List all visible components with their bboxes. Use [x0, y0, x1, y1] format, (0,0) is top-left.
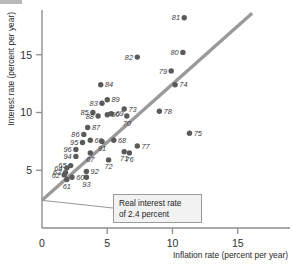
data-point-label-80: 80 [170, 48, 179, 57]
data-point-label-90: 90 [112, 110, 121, 119]
data-point-label-91: 91 [98, 144, 106, 153]
y-tick-label-10: 10 [20, 106, 32, 118]
data-point-marker-87 [85, 125, 90, 130]
data-point-marker-82 [135, 54, 140, 59]
x-tick-label-0: 0 [39, 237, 45, 249]
real-interest-rate-line [42, 13, 252, 200]
data-point-marker-84 [98, 82, 103, 87]
data-point-marker-62 [61, 172, 66, 177]
data-point-marker-96 [73, 147, 78, 152]
data-point-label-82: 82 [125, 53, 133, 62]
data-point: 94 [63, 152, 78, 161]
data-point-marker-86 [81, 132, 86, 137]
y-axis-title: Interest rate (percent per year) [6, 12, 16, 126]
data-point-marker-94 [73, 154, 78, 159]
x-axis-ticks [107, 228, 238, 234]
data-point-marker-83 [99, 101, 104, 106]
data-points-group: 8180827974848983737885699088708786756668… [52, 13, 203, 191]
data-point: 77 [135, 142, 151, 151]
data-point-label-72: 72 [104, 162, 112, 171]
data-point-label-88: 88 [86, 112, 95, 121]
data-point-label-83: 83 [90, 99, 99, 108]
chart-page: 8180827974848983737885699088708786756668… [0, 0, 293, 266]
data-point: 82 [125, 53, 140, 62]
data-point-marker-95 [80, 140, 85, 145]
data-point-marker-78 [157, 109, 162, 114]
data-point-label-84: 84 [105, 80, 113, 89]
data-point-label-60: 60 [76, 173, 85, 182]
data-point: 72 [104, 157, 112, 171]
data-point-marker-68 [111, 138, 116, 143]
x-axis-title: Inflation rate (percent per year) [173, 250, 288, 260]
annotation-line-1: Real interest rate [119, 199, 201, 210]
data-point: 89 [105, 95, 120, 104]
data-point-label-94: 94 [63, 152, 71, 161]
data-point-marker-90 [105, 112, 110, 117]
data-point-label-67: 67 [86, 155, 95, 164]
data-point-marker-60 [69, 175, 74, 180]
data-point: 87 [85, 123, 101, 132]
data-point-marker-64 [64, 165, 69, 170]
data-point-label-92: 92 [91, 167, 99, 176]
data-point: 78 [157, 107, 173, 116]
data-point: 79 [159, 67, 174, 76]
x-tick-label-10: 10 [167, 237, 179, 249]
data-point-label-62: 62 [52, 171, 60, 180]
data-point-label-73: 73 [128, 105, 137, 114]
data-point: 75 [187, 129, 203, 138]
y-axis-ticks [36, 55, 42, 171]
data-point: 90 [105, 110, 121, 119]
data-point-marker-89 [105, 97, 110, 102]
scatter-plot: 8180827974848983737885699088708786756668… [0, 0, 293, 266]
data-point-label-61: 61 [63, 182, 71, 191]
data-point: 84 [98, 80, 113, 89]
chart-canvas: 8180827974848983737885699088708786756668… [0, 0, 293, 266]
data-point-label-70: 70 [123, 119, 132, 128]
x-tick-label-15: 15 [232, 237, 244, 249]
data-point-marker-77 [135, 143, 140, 148]
annotation-leader-line [42, 200, 113, 208]
data-point-marker-92 [84, 169, 89, 174]
data-point-marker-75 [187, 131, 192, 136]
y-tick-label-15: 15 [20, 49, 32, 61]
data-point-marker-66 [88, 138, 93, 143]
data-point-marker-88 [95, 113, 100, 118]
data-point-label-77: 77 [142, 142, 151, 151]
data-point: 88 [86, 112, 101, 121]
y-tick-label-5: 5 [26, 164, 32, 176]
data-point-label-76: 76 [125, 155, 134, 164]
data-point: 73 [122, 105, 138, 114]
data-point-marker-79 [169, 68, 174, 73]
data-point-label-79: 79 [159, 67, 167, 76]
data-point-label-75: 75 [194, 129, 203, 138]
x-tick-label-5: 5 [104, 237, 110, 249]
data-point-label-74: 74 [179, 80, 187, 89]
data-point-label-78: 78 [164, 107, 173, 116]
data-point: 70 [123, 113, 132, 127]
data-point: 81 [172, 13, 187, 22]
annotation-text: Real interest rate of 2.4 percent [114, 195, 201, 220]
data-point-label-89: 89 [112, 95, 120, 104]
data-point-label-87: 87 [92, 123, 101, 132]
annotation-box: Real interest rate of 2.4 percent [113, 194, 202, 223]
data-point-label-68: 68 [118, 136, 127, 145]
data-point-marker-80 [180, 50, 185, 55]
data-point-marker-74 [172, 82, 177, 87]
data-point: 83 [90, 99, 105, 108]
data-point: 95 [70, 138, 85, 147]
data-point-marker-81 [182, 15, 187, 20]
data-point-label-81: 81 [172, 13, 180, 22]
annotation-line-2: of 2.4 percent [119, 210, 201, 221]
data-point: 80 [170, 48, 185, 57]
